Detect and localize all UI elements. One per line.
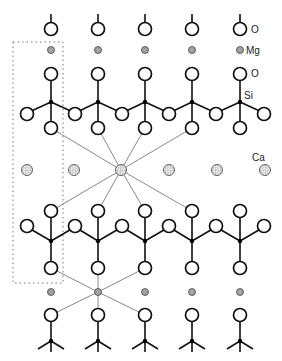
crystal-structure-diagram: O Mg O Si Ca <box>0 0 282 361</box>
calcium-atoms <box>22 165 271 176</box>
oxygen-atoms <box>21 23 271 322</box>
label-oxygen-top: O <box>251 24 259 35</box>
label-magnesium: Mg <box>246 45 260 56</box>
label-calcium: Ca <box>252 152 265 163</box>
label-silicon: Si <box>244 90 253 101</box>
label-oxygen-apex: O <box>251 68 259 79</box>
